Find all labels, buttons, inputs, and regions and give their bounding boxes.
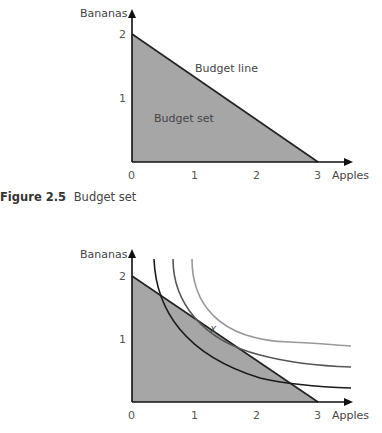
y-tick-2: 2 (119, 28, 126, 41)
x-axis-label-2: Apples (332, 409, 369, 422)
figure-caption-text: Budget set (74, 190, 137, 204)
x-tick-0-2: 0 (128, 409, 135, 422)
x-tick-3: 3 (314, 169, 321, 182)
budget-set-chart: Bananas 2 1 0 1 2 3 Apples Budget line B… (0, 0, 382, 433)
figure-caption: Figure 2.5 Budget set (0, 190, 136, 204)
x-axis-arrow-icon-2 (344, 398, 353, 406)
y-tick-1-2: 1 (119, 333, 126, 346)
y-tick-2-2: 2 (119, 270, 126, 283)
x-axis-arrow-icon (344, 158, 353, 166)
x-tick-3-2: 3 (314, 409, 321, 422)
optimum-point-label: X (209, 325, 217, 335)
x-tick-0: 0 (128, 169, 135, 182)
y-axis-label: Bananas (80, 7, 128, 20)
y-axis-arrow-icon-2 (128, 249, 136, 258)
x-tick-1-2: 1 (191, 409, 198, 422)
budget-line-label: Budget line (195, 62, 258, 75)
x-axis-label: Apples (332, 169, 369, 182)
x-tick-2: 2 (253, 169, 260, 182)
x-tick-1: 1 (191, 169, 198, 182)
y-tick-1: 1 (119, 92, 126, 105)
y-axis-label-2: Bananas (80, 248, 128, 261)
figure-number: Figure 2.5 (0, 190, 66, 204)
budget-set-label: Budget set (154, 112, 215, 125)
x-tick-2-2: 2 (253, 409, 260, 422)
y-axis-arrow-icon (128, 9, 136, 18)
